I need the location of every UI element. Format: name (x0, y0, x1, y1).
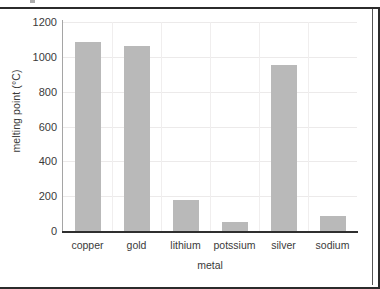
x-tick-label: copper (71, 239, 103, 251)
bar[interactable] (222, 222, 248, 231)
y-tick-label: 800 (13, 86, 57, 98)
y-tick-label: 1200 (13, 16, 57, 28)
bar[interactable] (271, 65, 297, 231)
plot-area (63, 22, 357, 231)
x-tick-label: silver (271, 239, 296, 251)
bar-series (63, 22, 357, 231)
y-tick-label: 0 (13, 225, 57, 237)
x-axis-line (62, 231, 358, 233)
x-tick-label: gold (127, 239, 147, 251)
bar-slot (259, 22, 308, 231)
y-tick-label: 400 (13, 155, 57, 167)
cropped-glyph-fragment (30, 0, 35, 3)
bar[interactable] (320, 216, 346, 231)
bar[interactable] (124, 46, 150, 231)
bar-slot (63, 22, 112, 231)
x-tick-label: potssium (213, 239, 255, 251)
y-tick-label: 1000 (13, 51, 57, 63)
x-axis-title: metal (63, 259, 357, 271)
y-axis-tick-labels: 120010008006004002000 (13, 9, 57, 234)
bar-slot (112, 22, 161, 231)
x-tick-label: lithium (170, 239, 200, 251)
bar[interactable] (75, 42, 101, 231)
bar-slot (161, 22, 210, 231)
figure-border-right-inner (372, 9, 373, 285)
bar-chart-figure: melting point (°C) 120010008006004002000… (0, 0, 380, 289)
bar-slot (308, 22, 357, 231)
bar[interactable] (173, 200, 199, 231)
y-tick-label: 200 (13, 190, 57, 202)
bar-slot (210, 22, 259, 231)
plot-wrapper: melting point (°C) 120010008006004002000… (0, 9, 366, 287)
y-tick-label: 600 (13, 121, 57, 133)
x-tick-label: sodium (316, 239, 350, 251)
